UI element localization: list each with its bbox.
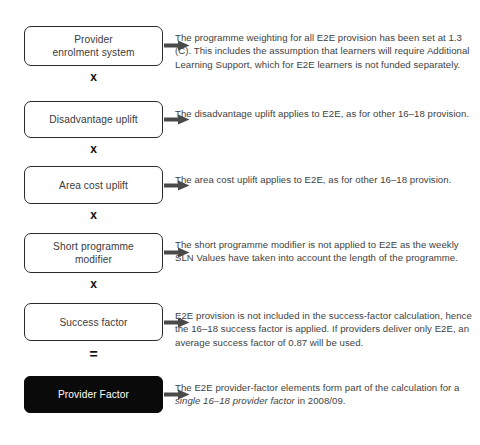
step-note-provider-enrolment-system: The programme weighting for all E2E prov…: [175, 31, 475, 71]
step-box-label: Disadvantage uplift: [49, 113, 138, 126]
step-note-success-factor: E2E provision is not included in the suc…: [175, 309, 475, 349]
step-box-label: Short programme modifier: [53, 240, 134, 266]
operator-multiply-2: x: [24, 142, 163, 156]
step-box-short-programme-modifier[interactable]: Short programme modifier: [24, 233, 163, 273]
operator-symbol: x: [90, 142, 97, 156]
step-box-label: Area cost uplift: [59, 179, 128, 192]
step-box-label: Provider Factor: [58, 388, 129, 401]
operator-symbol: x: [90, 208, 97, 222]
provider-factor-diagram: Provider enrolment system The programme …: [0, 0, 480, 445]
step-box-provider-factor[interactable]: Provider Factor: [24, 376, 163, 413]
operator-multiply-4: x: [24, 277, 163, 291]
operator-symbol: x: [90, 70, 97, 84]
step-box-label: Success factor: [59, 316, 127, 329]
note-text-tail: in 2008/09.: [295, 395, 346, 406]
step-box-provider-enrolment-system[interactable]: Provider enrolment system: [24, 26, 163, 66]
operator-equals: =: [24, 346, 163, 362]
note-text: The E2E provider-factor elements form pa…: [175, 382, 459, 393]
operator-symbol: x: [90, 277, 97, 291]
operator-symbol: =: [89, 346, 97, 362]
note-text: The disadvantage uplift applies to E2E, …: [175, 108, 469, 119]
step-box-disadvantage-uplift[interactable]: Disadvantage uplift: [24, 101, 163, 138]
note-text: The programme weighting for all E2E prov…: [175, 32, 470, 70]
step-box-success-factor[interactable]: Success factor: [24, 303, 163, 341]
step-box-area-cost-uplift[interactable]: Area cost uplift: [24, 166, 163, 204]
note-text-emphasis: single 16–18 provider factor: [175, 395, 295, 406]
step-box-label: Provider enrolment system: [53, 33, 135, 59]
note-text: The short programme modifier is not appl…: [175, 239, 459, 263]
operator-multiply-3: x: [24, 208, 163, 222]
step-note-short-programme-modifier: The short programme modifier is not appl…: [175, 238, 475, 265]
note-text: The area cost uplift applies to E2E, as …: [175, 174, 451, 185]
step-note-provider-factor: The E2E provider-factor elements form pa…: [175, 381, 475, 408]
step-note-area-cost-uplift: The area cost uplift applies to E2E, as …: [175, 173, 475, 186]
note-text: E2E provision is not included in the suc…: [175, 310, 472, 348]
step-note-disadvantage-uplift: The disadvantage uplift applies to E2E, …: [175, 107, 475, 120]
operator-multiply-1: x: [24, 70, 163, 84]
